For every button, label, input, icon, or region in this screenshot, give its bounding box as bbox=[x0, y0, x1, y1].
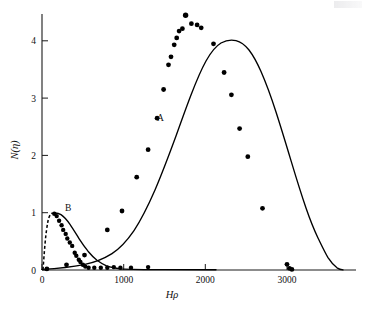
y-axis-ticks: 0 1 2 3 4 bbox=[31, 36, 48, 275]
data-point bbox=[105, 228, 110, 233]
data-point bbox=[59, 223, 63, 227]
data-point bbox=[174, 36, 179, 41]
data-point bbox=[199, 25, 204, 30]
data-point bbox=[99, 266, 103, 270]
curve-label-a: A bbox=[157, 113, 164, 123]
data-point bbox=[183, 13, 188, 18]
data-point bbox=[63, 232, 67, 236]
curve-b-path bbox=[52, 213, 216, 270]
data-point bbox=[237, 126, 242, 131]
data-point bbox=[169, 54, 174, 59]
y-tick-label-0: 0 bbox=[31, 266, 36, 276]
series-a-datapoints bbox=[45, 13, 295, 272]
data-point bbox=[120, 209, 125, 214]
data-point bbox=[118, 266, 122, 270]
data-point bbox=[112, 265, 116, 269]
x-tick-label-0: 0 bbox=[40, 275, 45, 285]
figure-container: 0 1 2 3 4 0 1000 2000 3000 Hρ N(η) bbox=[0, 0, 368, 309]
axes-group bbox=[42, 14, 356, 270]
curve-label-b: B bbox=[65, 203, 71, 213]
data-point bbox=[74, 254, 78, 258]
data-point bbox=[92, 266, 96, 270]
data-point bbox=[70, 244, 74, 248]
data-point bbox=[134, 175, 139, 180]
x-axis-title: Hρ bbox=[165, 289, 179, 300]
data-point bbox=[57, 219, 61, 223]
y-tick-label-2: 2 bbox=[31, 151, 36, 161]
data-point bbox=[146, 265, 150, 269]
x-tick-label-3000: 3000 bbox=[278, 275, 297, 285]
y-tick-label-1: 1 bbox=[31, 208, 36, 218]
data-point bbox=[129, 266, 133, 270]
x-axis-ticks: 0 1000 2000 3000 bbox=[40, 264, 297, 285]
data-point bbox=[260, 206, 265, 211]
x-tick-label-1000: 1000 bbox=[114, 275, 133, 285]
x-tick-label-2000: 2000 bbox=[196, 275, 215, 285]
y-tick-label-3: 3 bbox=[31, 94, 36, 104]
data-point bbox=[65, 236, 69, 240]
data-point bbox=[61, 228, 65, 232]
y-axis-title: N(η) bbox=[9, 140, 21, 161]
data-point bbox=[172, 42, 177, 47]
data-point bbox=[45, 267, 50, 272]
data-point bbox=[64, 262, 69, 267]
data-point bbox=[211, 41, 216, 46]
data-point bbox=[245, 154, 250, 159]
data-point bbox=[229, 92, 234, 97]
chart-canvas: 0 1 2 3 4 0 1000 2000 3000 Hρ N(η) bbox=[0, 0, 368, 309]
data-point bbox=[86, 266, 90, 270]
data-point bbox=[146, 147, 151, 152]
data-point bbox=[55, 214, 59, 218]
data-point bbox=[285, 262, 290, 267]
data-point bbox=[161, 87, 166, 92]
data-point bbox=[180, 26, 185, 31]
curve-b-dashed-path bbox=[43, 213, 52, 269]
data-point bbox=[195, 23, 200, 28]
data-point bbox=[189, 21, 194, 26]
data-point bbox=[166, 62, 171, 67]
y-tick-label-4: 4 bbox=[31, 36, 36, 46]
curve-a-path bbox=[42, 40, 343, 270]
data-point bbox=[82, 253, 87, 258]
data-point bbox=[222, 70, 227, 75]
data-point bbox=[290, 267, 295, 272]
data-point bbox=[105, 266, 109, 270]
